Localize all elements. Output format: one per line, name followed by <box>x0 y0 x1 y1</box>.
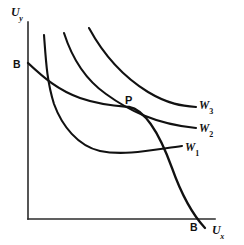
curve-w2 <box>64 33 196 128</box>
x-axis-label-sub: x <box>220 232 224 241</box>
curve-w3 <box>89 28 196 107</box>
curve-label-w2: W2 <box>199 123 213 137</box>
budget-label-y-intercept: B <box>13 59 21 70</box>
y-axis-label-sub: y <box>19 14 23 23</box>
curve-label-w1-main: W <box>185 141 195 153</box>
curve-label-w1: W1 <box>185 142 199 156</box>
x-axis-label: Ux <box>212 224 225 239</box>
budget-label-x-intercept: B <box>190 222 198 233</box>
curve-w1 <box>44 35 182 153</box>
optimum-point-label: P <box>125 95 132 106</box>
curve-label-w3-sub: 3 <box>209 107 213 116</box>
curve-label-w1-sub: 1 <box>195 149 199 158</box>
y-axis-label: Uy <box>11 6 23 21</box>
figure-container: Uy Ux B B P W3 W2 W1 <box>0 0 244 245</box>
curve-label-w2-main: W <box>199 122 209 134</box>
curve-label-w3: W3 <box>199 100 213 114</box>
curve-label-w3-main: W <box>199 99 209 111</box>
curve-label-w2-sub: 2 <box>209 130 213 139</box>
